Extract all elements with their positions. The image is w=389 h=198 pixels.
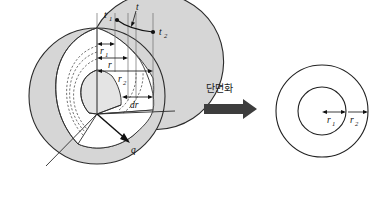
concentric-circles-group: r 1 r 2 — [276, 65, 368, 157]
t1-label: t — [104, 10, 107, 20]
dimension-r2-label: r — [118, 74, 122, 84]
cutaway-sphere-group: q t 1 t t 2 — [29, 0, 224, 166]
cross-section-caption: 단면화 — [206, 83, 233, 94]
t1-subscript: 1 — [109, 15, 112, 22]
t-mid-label: t — [136, 2, 139, 12]
circles-dimension-r1-label: r — [327, 115, 331, 125]
diagram-canvas: q t 1 t t 2 — [0, 0, 389, 198]
figure-container: q t 1 t t 2 — [0, 0, 389, 198]
dimension-r1-subscript: 1 — [105, 51, 108, 58]
t2-node-dot — [151, 30, 155, 34]
transform-annotation-group: 단면화 — [204, 83, 257, 119]
dimension-r1-label: r — [100, 46, 104, 56]
circles-dimension-r1-subscript: 1 — [332, 120, 335, 127]
t1-node-dot — [115, 18, 119, 22]
circles-dimension-r2-label: r — [350, 115, 354, 125]
transform-arrow-icon — [204, 99, 257, 119]
q-label: q — [131, 145, 136, 155]
t2-label: t — [159, 27, 162, 37]
dimension-r-label: r — [108, 60, 112, 70]
dimension-dr-label: dr — [130, 100, 139, 110]
inner-circle-r1 — [298, 87, 346, 135]
